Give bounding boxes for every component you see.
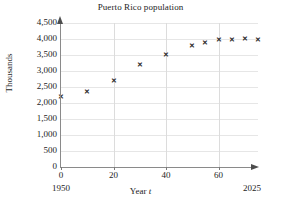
gridline-horizontal xyxy=(61,55,258,56)
y-axis-tick-label: 3,500 xyxy=(1,49,57,59)
gridline-horizontal xyxy=(61,71,258,72)
data-point: ✕ xyxy=(136,61,143,68)
gridline-vertical xyxy=(114,23,115,167)
x-axis-arrow-icon xyxy=(251,164,259,170)
gridline-vertical xyxy=(166,23,167,167)
y-axis-tick-label: 3,000 xyxy=(1,65,57,75)
y-axis-line xyxy=(60,23,61,168)
gridline-horizontal xyxy=(61,103,258,104)
gridline-vertical xyxy=(219,23,220,167)
data-point: ✕ xyxy=(110,77,117,84)
y-axis-tick-label: 1,000 xyxy=(1,129,57,139)
data-point: ✕ xyxy=(163,51,170,58)
x-axis-tick-label: 20 xyxy=(94,170,134,180)
data-point: ✕ xyxy=(189,42,196,49)
y-axis-tick-label: 2,000 xyxy=(1,97,57,107)
data-point: ✕ xyxy=(228,36,235,43)
y-axis-tick-label: 4,000 xyxy=(1,33,57,43)
chart-figure: Puerto Rico population Thousands 05001,0… xyxy=(0,0,281,204)
y-axis-tick-label: 4,500 xyxy=(1,17,57,27)
y-axis-arrow-icon xyxy=(57,16,63,24)
data-point: ✕ xyxy=(241,35,248,42)
gridline-horizontal xyxy=(61,23,258,24)
x-axis-tick-label: 0 xyxy=(41,170,81,180)
gridline-horizontal xyxy=(61,135,258,136)
x-axis-line xyxy=(61,167,253,168)
x-axis-tick-label: 60 xyxy=(199,170,239,180)
x-axis-tick-label: 40 xyxy=(146,170,186,180)
gridline-horizontal xyxy=(61,151,258,152)
y-axis-tick-label: 2,500 xyxy=(1,81,57,91)
data-point: ✕ xyxy=(58,93,65,100)
data-point: ✕ xyxy=(202,39,209,46)
gridline-horizontal xyxy=(61,119,258,120)
data-point: ✕ xyxy=(255,36,262,43)
data-point: ✕ xyxy=(215,36,222,43)
y-axis-tick-label: 1,500 xyxy=(1,113,57,123)
data-point: ✕ xyxy=(84,88,91,95)
x-axis-label: Year t xyxy=(0,186,281,196)
y-axis-tick-label: 500 xyxy=(1,145,57,155)
plot-area: ✕✕✕✕✕✕✕✕✕✕✕ xyxy=(61,23,258,167)
